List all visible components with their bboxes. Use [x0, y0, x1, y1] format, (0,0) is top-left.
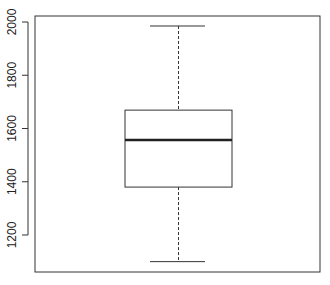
y-tick-label: 1800 [5, 62, 19, 89]
plot-frame [35, 16, 320, 272]
y-tick-label: 1400 [5, 168, 19, 195]
y-tick-label: 1600 [5, 115, 19, 142]
iqr-box [125, 110, 232, 187]
box [125, 26, 232, 262]
y-tick-label: 1200 [5, 221, 19, 248]
y-axis: 12001400160018002000 [5, 8, 28, 248]
y-tick-label: 2000 [5, 8, 19, 35]
boxplot-chart: 12001400160018002000 [0, 0, 330, 285]
